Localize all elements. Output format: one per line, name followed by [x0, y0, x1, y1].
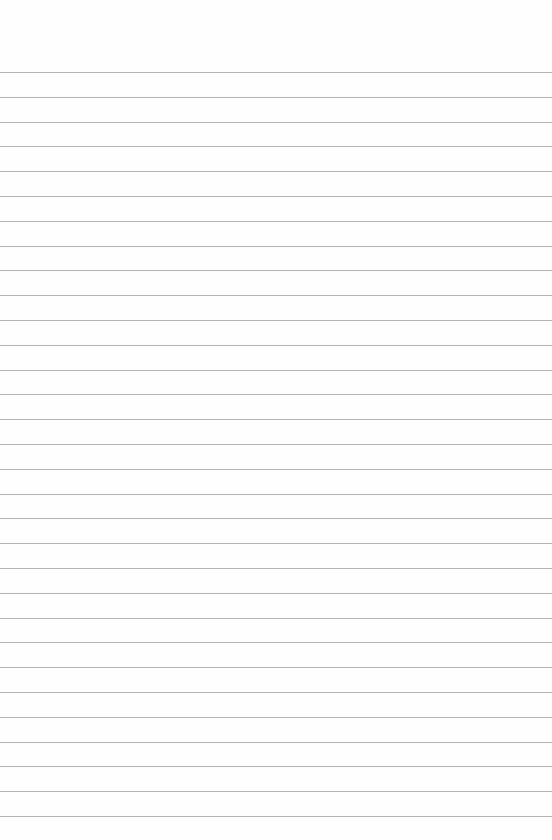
ruled-line [0, 444, 552, 445]
ruled-line [0, 320, 552, 321]
ruled-line [0, 221, 552, 222]
ruled-line [0, 568, 552, 569]
ruled-line [0, 419, 552, 420]
ruled-line [0, 345, 552, 346]
ruled-line [0, 766, 552, 767]
ruled-line [0, 642, 552, 643]
ruled-line [0, 122, 552, 123]
ruled-line [0, 171, 552, 172]
ruled-line [0, 593, 552, 594]
ruled-line [0, 667, 552, 668]
ruled-line [0, 717, 552, 718]
ruled-line [0, 543, 552, 544]
ruled-line [0, 295, 552, 296]
ruled-line [0, 791, 552, 792]
ruled-line [0, 816, 552, 817]
ruled-line [0, 469, 552, 470]
ruled-line [0, 97, 552, 98]
ruled-line [0, 196, 552, 197]
ruled-line [0, 146, 552, 147]
ruled-line [0, 72, 552, 73]
ruled-line [0, 518, 552, 519]
ruled-line [0, 394, 552, 395]
ruled-line [0, 370, 552, 371]
ruled-line [0, 692, 552, 693]
ruled-line [0, 742, 552, 743]
ruled-line [0, 246, 552, 247]
ruled-line [0, 494, 552, 495]
ruled-line [0, 270, 552, 271]
ruled-line [0, 618, 552, 619]
lined-paper-sheet [0, 0, 552, 840]
